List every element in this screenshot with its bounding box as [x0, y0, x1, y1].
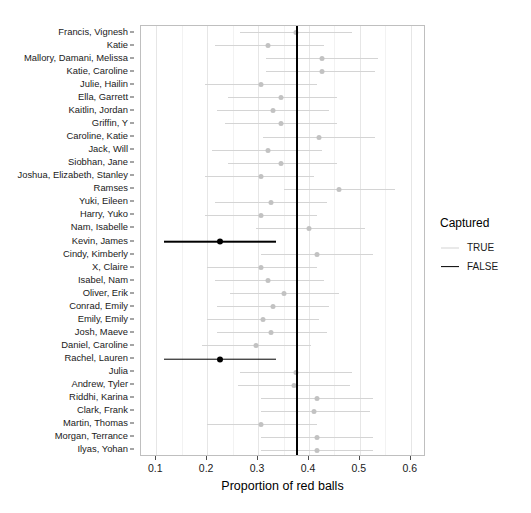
point-estimate-marker [217, 239, 223, 245]
interval-row [141, 53, 424, 64]
y-tick-label: Morgan, Terrance [55, 431, 128, 441]
y-tick-mark [130, 57, 134, 58]
y-tick-mark [130, 109, 134, 110]
legend-item-true[interactable]: TRUE [440, 239, 528, 256]
y-tick-label: X, Claire [92, 262, 128, 272]
legend-item-false[interactable]: FALSE [440, 258, 528, 275]
interval-row [141, 210, 424, 221]
y-tick-label: Conrad, Emily [69, 301, 128, 311]
y-tick-label: Yuki, Eileen [79, 196, 128, 206]
y-tick-label: Andrew, Tyler [71, 379, 128, 389]
y-tick-label: Ilyas, Yohan [77, 444, 128, 454]
point-estimate-marker [253, 343, 258, 348]
y-tick-label: Martin, Thomas [63, 418, 128, 428]
point-estimate-marker [319, 56, 324, 61]
point-estimate-marker [278, 161, 283, 166]
y-tick-mark [130, 436, 134, 437]
point-estimate-marker [314, 448, 319, 453]
interval-row [141, 249, 424, 260]
interval-row [141, 145, 424, 156]
y-tick-label: Katie, Caroline [67, 66, 129, 76]
point-estimate-marker [278, 95, 283, 100]
interval-row [141, 367, 424, 378]
interval-row [141, 184, 424, 195]
point-estimate-marker [258, 422, 263, 427]
y-tick-label: Kaitlin, Jordan [69, 105, 128, 115]
point-estimate-marker [281, 291, 286, 296]
y-tick-mark [130, 70, 134, 71]
point-estimate-marker [314, 396, 319, 401]
legend-key-line-icon [440, 258, 460, 275]
y-tick-mark [130, 96, 134, 97]
y-tick-mark [130, 318, 134, 319]
x-tick-mark [257, 456, 258, 460]
x-axis-title: Proportion of red balls [140, 479, 425, 493]
y-tick-label: Ella, Garrett [78, 92, 128, 102]
point-estimate-marker [337, 187, 342, 192]
point-estimate-marker [314, 252, 319, 257]
interval-row [141, 445, 424, 456]
interval-row [141, 288, 424, 299]
y-tick-mark [130, 136, 134, 137]
interval-row [141, 118, 424, 129]
interval-row [141, 223, 424, 234]
y-tick-label: Isabel, Nam [78, 275, 128, 285]
y-tick-label: Julia [109, 366, 128, 376]
x-tick-mark [359, 456, 360, 460]
y-tick-mark [130, 449, 134, 450]
legend-item-label: TRUE [460, 242, 494, 253]
interval-row [141, 132, 424, 143]
y-tick-mark [130, 410, 134, 411]
y-tick-mark [130, 83, 134, 84]
legend-title: Captured [440, 216, 528, 230]
x-tick-mark [308, 456, 309, 460]
legend: Captured TRUEFALSE [440, 216, 528, 277]
point-estimate-marker [258, 82, 263, 87]
reference-line [296, 26, 298, 455]
interval-row [141, 92, 424, 103]
y-tick-label: Kevin, James [72, 236, 128, 246]
y-tick-mark [130, 253, 134, 254]
point-estimate-marker [266, 148, 271, 153]
legend-item-label: FALSE [460, 261, 498, 272]
y-tick-mark [130, 305, 134, 306]
x-tick-label: 0.5 [352, 462, 367, 474]
point-estimate-marker [317, 135, 322, 140]
y-tick-label: Emily, Emily [78, 314, 128, 324]
y-tick-mark [130, 122, 134, 123]
y-tick-label: Clark, Frank [77, 405, 128, 415]
x-tick-label: 0.4 [301, 462, 316, 474]
point-estimate-marker [268, 330, 273, 335]
point-estimate-marker [268, 200, 273, 205]
interval-row [141, 301, 424, 312]
y-tick-mark [130, 423, 134, 424]
interval-row [141, 340, 424, 351]
point-estimate-marker [306, 226, 311, 231]
y-tick-mark [130, 214, 134, 215]
x-tick-mark [410, 456, 411, 460]
interval-row [141, 419, 424, 430]
y-tick-label: Josh, Maeve [75, 327, 128, 337]
interval-row [141, 354, 424, 365]
x-tick-mark [155, 456, 156, 460]
y-tick-label: Siobhan, Jane [68, 157, 128, 167]
y-tick-mark [130, 371, 134, 372]
interval-row [141, 158, 424, 169]
point-estimate-marker [312, 409, 317, 414]
y-tick-label: Francis, Vignesh [58, 27, 128, 37]
y-tick-mark [130, 227, 134, 228]
x-tick-label: 0.1 [148, 462, 163, 474]
y-tick-mark [130, 292, 134, 293]
interval-row [141, 27, 424, 38]
legend-items: TRUEFALSE [440, 239, 528, 275]
y-tick-label: Mallory, Damani, Melissa [24, 53, 128, 63]
y-tick-mark [130, 240, 134, 241]
y-tick-mark [130, 162, 134, 163]
interval-row [141, 40, 424, 51]
confidence-interval-chart: Francis, VigneshKatieMallory, Damani, Me… [0, 0, 531, 513]
interval-row [141, 79, 424, 90]
plot-panel [140, 25, 425, 456]
y-tick-mark [130, 188, 134, 189]
y-axis: Francis, VigneshKatieMallory, Damani, Me… [0, 25, 134, 456]
y-tick-label: Joshua, Elizabeth, Stanley [18, 170, 129, 180]
